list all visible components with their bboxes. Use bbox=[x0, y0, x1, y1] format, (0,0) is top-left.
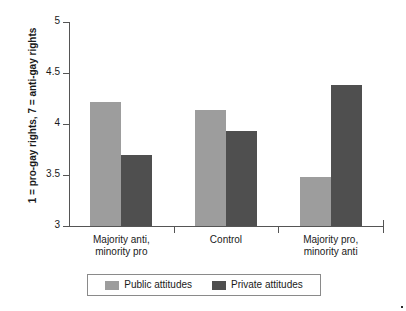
legend-item: Public attitudes bbox=[105, 280, 192, 290]
x-axis-group-label-line1: Majority pro, bbox=[278, 234, 383, 246]
bars-layer bbox=[69, 22, 383, 226]
bar-private-1 bbox=[226, 131, 257, 226]
y-axis-tick-label: 3 bbox=[38, 220, 60, 230]
x-axis-line bbox=[69, 226, 384, 227]
x-axis-group-label: Control bbox=[174, 234, 279, 246]
x-axis-group-label-line1: Majority anti, bbox=[69, 234, 174, 246]
bar-public-2 bbox=[300, 177, 331, 226]
x-axis-group-label-line2: minority pro bbox=[69, 246, 174, 258]
legend-label: Private attitudes bbox=[231, 280, 303, 290]
legend-swatch-private-attitudes bbox=[212, 281, 226, 290]
x-axis-separator bbox=[174, 226, 175, 233]
x-axis-group-label: Majority anti,minority pro bbox=[69, 234, 174, 258]
bar-chart: 1 = pro-gay rights, 7 = anti-gay rights … bbox=[0, 0, 406, 311]
legend-item: Private attitudes bbox=[212, 280, 303, 290]
bar-private-0 bbox=[121, 155, 152, 226]
page-corner-mark bbox=[401, 306, 403, 308]
x-axis-separator bbox=[383, 226, 384, 233]
bar-public-0 bbox=[90, 102, 121, 226]
bar-private-2 bbox=[331, 85, 362, 226]
bar-public-1 bbox=[195, 110, 226, 226]
x-axis-group-label: Majority pro,minority anti bbox=[278, 234, 383, 258]
y-axis-tick-label: 4.5 bbox=[38, 67, 60, 77]
y-axis-title: 1 = pro-gay rights, 7 = anti-gay rights bbox=[27, 0, 38, 236]
y-axis-tick-label: 5 bbox=[38, 16, 60, 26]
y-axis-tick-label: 3.5 bbox=[38, 169, 60, 179]
x-axis-group-label-line2: minority anti bbox=[278, 246, 383, 258]
y-axis-tick-label: 4 bbox=[38, 118, 60, 128]
x-axis-separator bbox=[278, 226, 279, 233]
x-axis-group-label-line1: Control bbox=[174, 234, 279, 246]
legend-label: Public attitudes bbox=[124, 280, 192, 290]
legend-swatch-public-attitudes bbox=[105, 281, 119, 290]
chart-legend: Public attitudes Private attitudes bbox=[87, 274, 321, 296]
